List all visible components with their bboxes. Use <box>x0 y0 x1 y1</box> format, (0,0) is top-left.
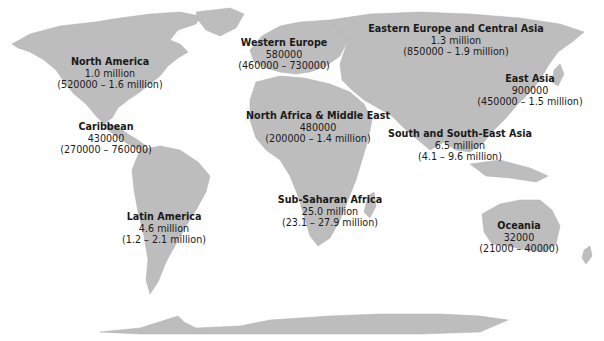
region-name: South and South-East Asia <box>388 128 532 140</box>
region-name: Oceania <box>479 220 558 232</box>
region-range: (23.1 – 27.9 million) <box>278 217 382 229</box>
region-label-north-america: North America 1.0 million (520000 – 1.6 … <box>57 56 162 91</box>
region-name: North Africa & Middle East <box>246 110 390 122</box>
region-range: (4.1 – 9.6 million) <box>388 151 532 163</box>
region-label-oceania: Oceania 32000 (21000 – 40000) <box>479 220 558 255</box>
landmass-new-zealand <box>582 246 592 264</box>
region-label-western-europe: Western Europe 580000 (460000 – 730000) <box>238 37 330 72</box>
landmass-greenland <box>196 8 244 36</box>
region-label-caribbean: Caribbean 430000 (270000 – 760000) <box>60 121 152 156</box>
region-estimate: 900000 <box>477 85 582 97</box>
region-range: (460000 – 730000) <box>238 60 330 72</box>
region-estimate: 430000 <box>60 133 152 145</box>
landmass-antarctica <box>100 314 508 334</box>
region-label-latin-america: Latin America 4.6 million (1.2 – 2.1 mil… <box>122 211 206 246</box>
region-range: (1.2 – 2.1 million) <box>122 234 206 246</box>
region-estimate: 580000 <box>238 49 330 61</box>
region-label-south-southeast-asia: South and South-East Asia 6.5 million (4… <box>388 128 532 163</box>
region-label-north-africa-middle-east: North Africa & Middle East 480000 (20000… <box>246 110 390 145</box>
region-name: North America <box>57 56 162 68</box>
region-range: (850000 – 1.9 million) <box>368 46 543 58</box>
region-name: Caribbean <box>60 121 152 133</box>
region-range: (270000 – 760000) <box>60 144 152 156</box>
region-range: (450000 – 1.5 million) <box>477 96 582 108</box>
region-name: Western Europe <box>238 37 330 49</box>
region-label-eastern-europe-central-asia: Eastern Europe and Central Asia 1.3 mill… <box>368 23 543 58</box>
region-name: Eastern Europe and Central Asia <box>368 23 543 35</box>
region-name: Latin America <box>122 211 206 223</box>
region-label-sub-saharan-africa: Sub-Saharan Africa 25.0 million (23.1 – … <box>278 194 382 229</box>
region-estimate: 1.0 million <box>57 68 162 80</box>
region-estimate: 1.3 million <box>368 35 543 47</box>
region-name: East Asia <box>477 73 582 85</box>
region-estimate: 6.5 million <box>388 140 532 152</box>
landmass-se-asia-islands <box>470 160 548 182</box>
region-estimate: 4.6 million <box>122 223 206 235</box>
region-estimate: 25.0 million <box>278 206 382 218</box>
region-estimate: 32000 <box>479 232 558 244</box>
region-range: (21000 – 40000) <box>479 243 558 255</box>
region-range: (520000 – 1.6 million) <box>57 79 162 91</box>
region-name: Sub-Saharan Africa <box>278 194 382 206</box>
region-estimate: 480000 <box>246 122 390 134</box>
region-label-east-asia: East Asia 900000 (450000 – 1.5 million) <box>477 73 582 108</box>
region-range: (200000 – 1.4 million) <box>246 133 390 145</box>
